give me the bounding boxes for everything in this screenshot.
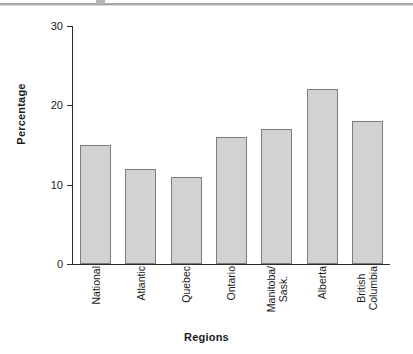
bar xyxy=(352,121,383,264)
y-tick-label: 10 xyxy=(51,179,63,191)
x-axis-line xyxy=(72,264,390,265)
category-label: Atlantic xyxy=(118,266,163,328)
category-label: Quebec xyxy=(164,266,209,328)
scan-artifact-line-secondary xyxy=(0,5,413,6)
category-label-line: British xyxy=(355,274,367,303)
bar xyxy=(261,129,292,264)
category-label-line: Ontario xyxy=(225,266,237,300)
category-label: National xyxy=(73,266,118,328)
category-label-line: Columbia xyxy=(367,266,379,310)
bar-series xyxy=(73,26,390,264)
y-tick-label: 20 xyxy=(51,99,63,111)
y-tick-label: 0 xyxy=(57,258,63,270)
bar xyxy=(216,137,247,264)
scan-artifact-nub xyxy=(96,0,105,4)
bar-chart-figure: Percentage 0102030 NationalAtlanticQuebe… xyxy=(0,0,413,354)
x-axis-category-labels: NationalAtlanticQuebecOntarioManitoba/Sa… xyxy=(73,266,390,328)
category-label: BritishColumbia xyxy=(345,266,390,328)
category-label-line: National xyxy=(90,266,102,305)
category-label: Ontario xyxy=(209,266,254,328)
category-label-line: Alberta xyxy=(316,266,328,299)
y-axis-title: Percentage xyxy=(15,69,27,159)
bar xyxy=(80,145,111,264)
y-tick-mark xyxy=(67,264,73,265)
category-label: Manitoba/Sask. xyxy=(254,266,299,328)
plot-area: 0102030 xyxy=(72,26,390,264)
bar xyxy=(171,177,202,264)
category-label-line: Manitoba/ xyxy=(265,266,277,312)
bar xyxy=(307,89,338,264)
category-label-line: Atlantic xyxy=(135,266,147,300)
category-label-line: Sask. xyxy=(277,266,289,312)
x-axis-title: Regions xyxy=(0,331,413,343)
bar xyxy=(125,169,156,264)
y-tick-label: 30 xyxy=(51,20,63,32)
category-label-line: Quebec xyxy=(180,266,192,303)
category-label: Alberta xyxy=(299,266,344,328)
